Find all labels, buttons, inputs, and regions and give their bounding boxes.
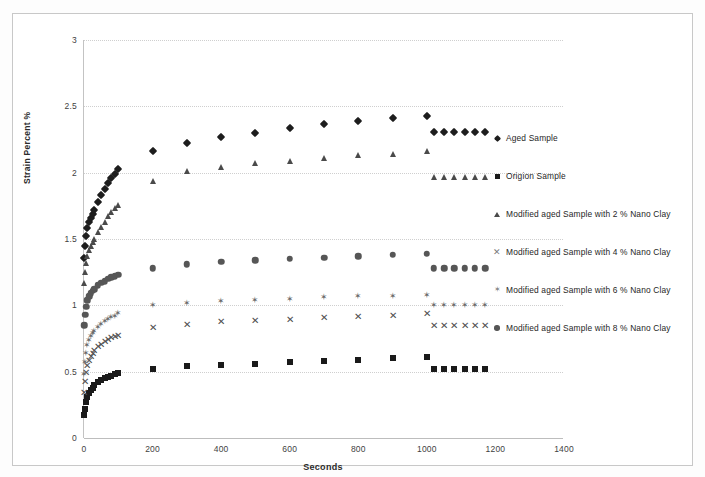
data-point xyxy=(86,293,93,300)
data-point: ✕ xyxy=(87,352,95,359)
data-point xyxy=(88,210,96,218)
data-point xyxy=(108,373,114,379)
data-point xyxy=(86,390,92,396)
data-point xyxy=(461,265,468,272)
data-point xyxy=(98,280,105,287)
data-point xyxy=(481,127,489,135)
legend-item[interactable]: ✕Modified aged Sample with 4 % Nano Clay xyxy=(491,233,705,271)
data-point: ✶ xyxy=(82,350,90,357)
data-point xyxy=(81,241,89,249)
data-point xyxy=(355,357,361,363)
data-point xyxy=(111,170,119,178)
data-point: ✕ xyxy=(450,322,458,329)
data-point: ✶ xyxy=(90,327,98,334)
data-point xyxy=(100,184,108,192)
x-tick-label: 1200 xyxy=(486,444,506,454)
data-point xyxy=(81,280,87,286)
chart-legend: Aged SampleOrigion SampleModified aged S… xyxy=(491,119,705,347)
legend-item[interactable]: Aged Sample xyxy=(491,119,705,157)
legend-item-label: Modified aged Sample with 2 % Nano Clay xyxy=(506,209,671,219)
data-point xyxy=(82,406,88,412)
data-point xyxy=(472,265,479,272)
x-tick-label: 1400 xyxy=(554,444,574,454)
legend-item[interactable]: Modified aged Sample with 2 % Nano Clay xyxy=(491,195,705,233)
gridline-y xyxy=(84,372,563,373)
legend-item[interactable]: ✶Modified aged Sample with 6 % Nano Clay xyxy=(491,271,705,309)
data-point: ✶ xyxy=(89,330,97,337)
data-point: ✶ xyxy=(87,332,95,339)
legend-item[interactable]: Modified aged Sample with 8 % Nano Clay xyxy=(491,309,705,347)
data-point xyxy=(462,174,468,180)
data-point xyxy=(97,191,105,199)
data-point xyxy=(423,111,431,119)
legend-item-label: Modified aged Sample with 6 % Nano Clay xyxy=(506,285,671,295)
data-point: ✶ xyxy=(423,291,431,298)
data-point xyxy=(82,269,88,275)
data-point xyxy=(424,354,430,360)
data-point xyxy=(85,218,93,226)
data-point xyxy=(102,219,108,225)
data-point: ✕ xyxy=(149,323,157,330)
data-point: ✕ xyxy=(251,316,259,323)
data-point xyxy=(252,257,259,264)
data-point: ✕ xyxy=(90,347,98,354)
data-point: ✕ xyxy=(320,314,328,321)
data-point xyxy=(114,164,122,172)
data-point: ✕ xyxy=(85,356,93,363)
data-point xyxy=(95,229,101,235)
data-point xyxy=(218,164,224,170)
data-point: ✶ xyxy=(320,294,328,301)
x-tick-label: 200 xyxy=(145,444,160,454)
gridline-y xyxy=(84,438,563,439)
data-point xyxy=(482,174,488,180)
y-tick-label: 2 xyxy=(72,168,77,178)
x-tick-label: 800 xyxy=(351,444,366,454)
data-point xyxy=(460,127,468,135)
data-point: ✶ xyxy=(286,295,294,302)
data-point xyxy=(81,322,88,329)
data-point xyxy=(84,253,90,259)
data-point: ✶ xyxy=(389,293,397,300)
cross-marker-icon: ✕ xyxy=(491,248,503,256)
data-point xyxy=(84,297,91,304)
data-point xyxy=(149,265,156,272)
y-tick-label: 0 xyxy=(72,433,77,443)
data-point xyxy=(424,148,430,154)
data-point xyxy=(98,377,104,383)
star-marker-icon: ✶ xyxy=(491,286,503,294)
data-point: ✕ xyxy=(89,350,97,357)
data-point xyxy=(91,286,98,293)
y-tick-label: 1 xyxy=(72,300,77,310)
data-point xyxy=(105,276,112,283)
data-point xyxy=(451,174,457,180)
x-tick-label: 1000 xyxy=(417,444,437,454)
data-point: ✶ xyxy=(107,314,115,321)
data-point xyxy=(105,213,111,219)
data-point: ✕ xyxy=(83,362,91,369)
data-point xyxy=(150,178,156,184)
data-point: ✕ xyxy=(430,322,438,329)
data-point: ✶ xyxy=(104,315,112,322)
data-point: ✶ xyxy=(217,298,225,305)
data-point xyxy=(287,158,293,164)
data-point: ✶ xyxy=(251,297,259,304)
data-point xyxy=(355,152,361,158)
data-point: ✕ xyxy=(94,343,102,350)
data-point: ✶ xyxy=(97,320,105,327)
legend-item[interactable]: Origion Sample xyxy=(491,157,705,195)
data-point: ✶ xyxy=(111,312,119,319)
data-point xyxy=(88,290,95,297)
x-axis-title: Seconds xyxy=(83,462,563,472)
data-point xyxy=(115,202,121,208)
data-point xyxy=(390,355,396,361)
data-point xyxy=(321,254,328,261)
y-axis-title: Strain Percent % xyxy=(22,112,32,184)
data-point xyxy=(287,359,293,365)
data-point: ✕ xyxy=(286,315,294,322)
data-point xyxy=(390,151,396,157)
data-point: ✕ xyxy=(440,322,448,329)
data-point xyxy=(450,127,458,135)
data-point xyxy=(107,174,115,182)
data-point xyxy=(89,287,96,294)
data-point xyxy=(83,260,89,266)
